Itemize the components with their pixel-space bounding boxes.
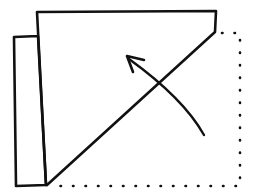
dotted-outline xyxy=(52,33,240,186)
folded-flap xyxy=(37,11,216,185)
fold-arrow xyxy=(129,59,204,135)
fold-diagram xyxy=(0,0,255,196)
diagram-svg xyxy=(0,0,255,196)
